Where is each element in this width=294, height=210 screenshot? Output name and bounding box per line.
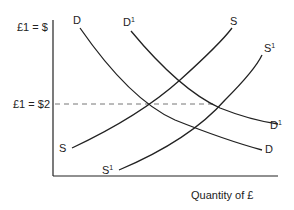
supply-curve-s1 [119,55,262,170]
y-axis-top-label: £1 = $ [17,21,48,33]
demand-curve-d1 [131,31,278,124]
label-d-top: D [73,14,81,26]
label-d1-right: D1 [270,119,282,131]
supply-curve-s [72,28,232,148]
label-d-right: D [265,143,273,155]
y-axis-value-label: £1 = $2 [13,98,50,110]
exchange-rate-diagram: £1 = $ £1 = $2 Quantity of £ D D1 S S1 S… [0,0,294,210]
demand-curve-d [80,28,262,150]
label-s-bottom: S [59,142,66,154]
label-d1-top: D1 [123,16,135,28]
label-s1-top: S1 [264,42,275,54]
label-s-top: S [230,15,237,27]
x-axis-label: Quantity of £ [191,189,253,201]
label-s1-bottom: S1 [102,164,113,176]
